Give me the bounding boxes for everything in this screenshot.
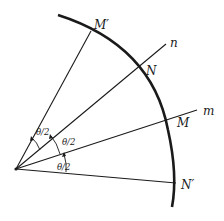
origin-point: [14, 167, 17, 170]
geometry-diagram: θ/2 θ/2 θ/2 M′ N M N′ n m: [0, 0, 224, 221]
angle-label-top: θ/2: [36, 127, 49, 137]
angle-label-middle: θ/2: [62, 137, 75, 147]
label-m-point: M: [176, 116, 190, 130]
label-line-m: m: [203, 104, 214, 118]
label-m-prime: M′: [93, 18, 109, 32]
diagram-canvas: θ/2 θ/2 θ/2 M′ N M N′ n m: [0, 0, 224, 221]
label-n-prime: N′: [180, 178, 195, 192]
angle-label-bottom: θ/2: [57, 162, 70, 172]
line-n: [16, 44, 166, 169]
label-n-point: N: [145, 64, 157, 78]
label-line-n: n: [170, 36, 178, 50]
ray-to-n-prime: [16, 169, 176, 183]
